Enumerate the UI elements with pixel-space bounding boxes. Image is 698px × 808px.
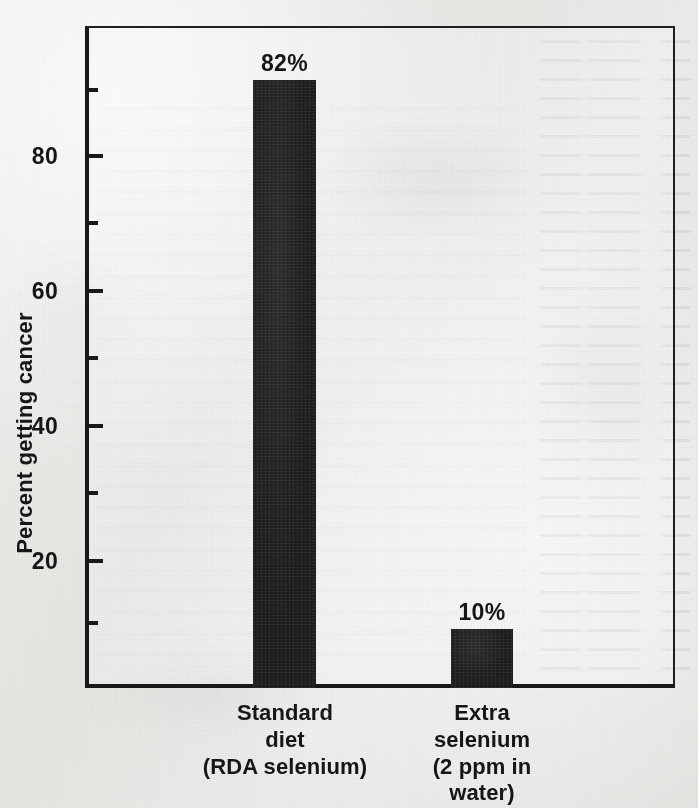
scanned-chart-page: 20 40 60 80 Percent getting cancer 82% 1… bbox=[0, 0, 698, 808]
y-axis-major-tick-60 bbox=[85, 289, 103, 293]
y-axis-major-tick-80 bbox=[85, 154, 103, 158]
x-axis-category-label-extra-selenium: Extra selenium (2 ppm in water) bbox=[392, 700, 572, 807]
y-axis-title: Percent getting cancer bbox=[12, 203, 38, 663]
y-axis-minor-tick-90 bbox=[85, 88, 98, 92]
y-axis-major-tick-20 bbox=[85, 559, 103, 563]
bar-extra-selenium bbox=[451, 629, 513, 688]
y-axis-tick-label-80: 80 bbox=[6, 143, 58, 170]
plot-area-frame bbox=[85, 26, 675, 688]
y-axis-major-tick-40 bbox=[85, 424, 103, 428]
y-axis-minor-tick-50 bbox=[85, 356, 98, 360]
y-axis-minor-tick-30 bbox=[85, 491, 98, 495]
bar-standard-diet bbox=[253, 80, 316, 688]
y-axis-minor-tick-70 bbox=[85, 221, 98, 225]
bar-value-label-standard-diet: 82% bbox=[233, 50, 336, 77]
x-axis-category-label-standard-diet: Standard diet (RDA selenium) bbox=[180, 700, 390, 780]
y-axis-minor-tick-10 bbox=[85, 621, 98, 625]
bar-value-label-extra-selenium: 10% bbox=[431, 599, 533, 626]
bar-chart: 20 40 60 80 Percent getting cancer 82% 1… bbox=[0, 0, 698, 808]
